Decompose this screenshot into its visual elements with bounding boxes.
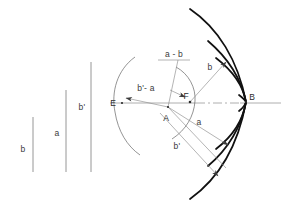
construction-arc-group <box>114 57 195 155</box>
point-marker-E <box>121 102 123 104</box>
scale-bar-label-a: a <box>55 128 60 138</box>
point-marker-A <box>167 106 169 108</box>
ray-label-a: a <box>197 117 202 127</box>
point-marker-F <box>189 101 192 104</box>
point-label-E: E <box>110 98 116 108</box>
caustic-arc-2 <box>208 41 246 166</box>
point-label-A: A <box>163 113 169 123</box>
ray-bprime-minus-a <box>126 98 168 107</box>
caustic-arc-group <box>190 9 246 199</box>
ray-label-b: b <box>208 62 213 72</box>
ray-label-bprime-minus-a: b'- a <box>137 83 154 93</box>
point-label-B: B <box>249 92 255 102</box>
scale-bar-label-bprime: b' <box>79 102 86 112</box>
arc-about-A-lower <box>172 101 195 139</box>
caustic-arc-1 <box>190 9 246 199</box>
leader-a-minus-b <box>168 60 178 107</box>
ray-label-bprime: b' <box>174 141 181 151</box>
scale-bar-group <box>33 62 91 172</box>
scale-bar-label-b: b <box>21 144 26 154</box>
ray-group <box>126 60 228 176</box>
point-marker-B <box>245 101 247 103</box>
label-group: b a b' E A F B a - b b'- a b a b' <box>21 49 256 154</box>
ray-label-a-minus-b: a - b <box>165 49 183 59</box>
caustic-arc-3 <box>216 58 246 149</box>
point-marker-group <box>121 101 247 108</box>
arc-through-E <box>114 57 135 112</box>
point-label-F: F <box>183 91 188 101</box>
figure-root: b a b' E A F B a - b b'- a b a b' <box>0 0 283 207</box>
arc-through-E-lower <box>115 112 140 155</box>
geometry-figure: b a b' E A F B a - b b'- a b a b' <box>0 0 283 207</box>
